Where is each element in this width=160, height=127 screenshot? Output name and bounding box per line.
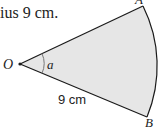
label-radius: 9 cm: [58, 92, 86, 107]
label-o: O: [3, 57, 13, 72]
label-a: A: [134, 0, 143, 7]
label-angle: a: [47, 57, 54, 72]
sector-shape: [20, 6, 157, 117]
sector-diagram: O a A B 9 cm: [0, 0, 160, 127]
label-b: B: [145, 115, 153, 127]
center-point: [18, 62, 21, 65]
